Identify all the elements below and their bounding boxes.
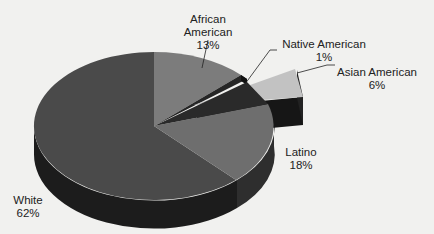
label-african-american: African American 13%: [180, 13, 236, 52]
label-native-american-pct: 1%: [276, 51, 372, 64]
label-asian-american-pct: 6%: [332, 79, 422, 92]
label-asian-american-name: Asian American: [332, 66, 422, 79]
leader-asian-american: [297, 65, 335, 73]
label-asian-american: Asian American 6%: [332, 66, 422, 92]
label-african-american-line2: American: [180, 26, 236, 39]
label-latino-name: Latino: [276, 146, 326, 159]
label-african-american-pct: 13%: [180, 39, 236, 52]
label-latino-pct: 18%: [276, 159, 326, 172]
label-latino: Latino 18%: [276, 146, 326, 172]
label-white-name: White: [8, 194, 48, 207]
label-white: White 62%: [8, 194, 48, 220]
label-african-american-line1: African: [180, 13, 236, 26]
label-native-american-name: Native American: [276, 38, 372, 51]
label-white-pct: 62%: [8, 207, 48, 220]
label-native-american: Native American 1%: [276, 38, 372, 64]
